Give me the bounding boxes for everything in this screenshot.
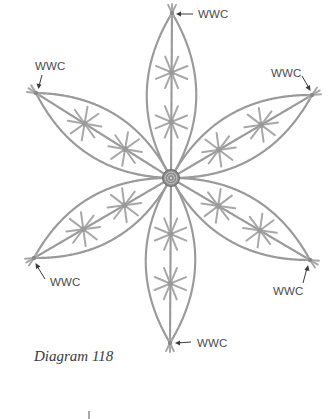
wwc-label-lower-right: WWC	[273, 285, 304, 297]
spider-center-icon	[81, 226, 87, 232]
arrow-icon	[37, 266, 45, 279]
wwc-label-upper-left: WWC	[35, 60, 66, 72]
label-upper-right: WWC	[271, 67, 311, 91]
wwc-label-upper-right: WWC	[271, 67, 302, 79]
petal-lower-right	[171, 178, 319, 267]
arrowhead-icon	[175, 341, 180, 346]
arrowhead-icon	[37, 84, 42, 90]
spider-center-icon	[257, 228, 263, 234]
label-lower-left: WWC	[36, 263, 81, 288]
wwc-knot-icon	[170, 11, 174, 15]
label-top: WWC	[176, 8, 229, 20]
spider-center-icon	[169, 70, 175, 76]
arrowhead-icon	[176, 12, 181, 17]
wwc-label-lower-left: WWC	[50, 276, 81, 288]
wwc-knot-icon	[308, 258, 312, 262]
wwc-knot-icon	[310, 93, 314, 97]
spider-center-icon	[168, 231, 174, 237]
spider-center-icon	[216, 147, 222, 153]
label-bottom: WWC	[175, 337, 228, 349]
arrowhead-icon	[305, 265, 310, 271]
spider-center-icon	[258, 122, 264, 128]
label-lower-right: WWC	[273, 265, 310, 297]
wwc-label-bottom: WWC	[197, 337, 228, 349]
petal-upper-left	[27, 85, 171, 178]
flower-lace-diagram: WWC WWC WWC WWC WWC WWC Diagram 118	[0, 0, 335, 419]
petal-upper-right	[171, 88, 321, 178]
spider-center-icon	[168, 281, 174, 287]
spider-center-icon	[122, 202, 128, 208]
label-upper-left: WWC	[35, 60, 66, 89]
spider-center-icon	[169, 119, 175, 125]
spider-center-icon	[215, 203, 221, 209]
wwc-knot-icon	[34, 91, 38, 95]
wwc-label-top: WWC	[198, 8, 229, 20]
wwc-knot-icon	[168, 341, 172, 345]
spider-center-icon	[122, 146, 128, 152]
petal-lower-left	[25, 178, 171, 265]
wwc-knot-icon	[32, 256, 36, 260]
center-spiral-icon	[163, 170, 180, 187]
spider-center-icon	[82, 121, 88, 127]
diagram-caption: Diagram 118	[33, 348, 114, 364]
